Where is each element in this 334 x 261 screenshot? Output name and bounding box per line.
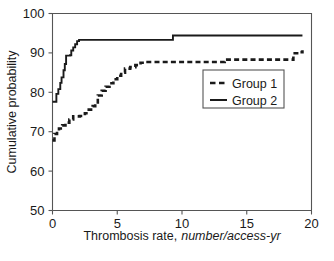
cumulative-probability-chart: 5060708090100 05101520 Group 1Group 2 Th… <box>0 0 334 261</box>
y-axis-title: Cumulative probability <box>5 50 19 174</box>
x-tick-label: 0 <box>49 216 56 231</box>
x-axis-title-plain: Thrombosis rate, <box>83 229 177 243</box>
x-tick-label: 20 <box>304 216 318 231</box>
y-tick-label: 80 <box>30 85 44 100</box>
y-tick-label: 70 <box>30 124 44 139</box>
y-tick-label: 50 <box>30 203 44 218</box>
y-tick-label: 100 <box>23 6 45 21</box>
chart-legend: Group 1Group 2 <box>203 70 284 108</box>
y-tick-label: 60 <box>30 164 44 179</box>
legend-label-1: Group 1 <box>232 77 277 91</box>
legend-label-2: Group 2 <box>232 94 277 108</box>
chart-figure: 5060708090100 05101520 Group 1Group 2 Th… <box>0 0 334 261</box>
y-tick-label: 90 <box>30 45 44 60</box>
x-axis-title: Thrombosis rate,number/access-yr <box>83 229 281 243</box>
x-axis-title-italic: number/access-yr <box>181 229 281 243</box>
